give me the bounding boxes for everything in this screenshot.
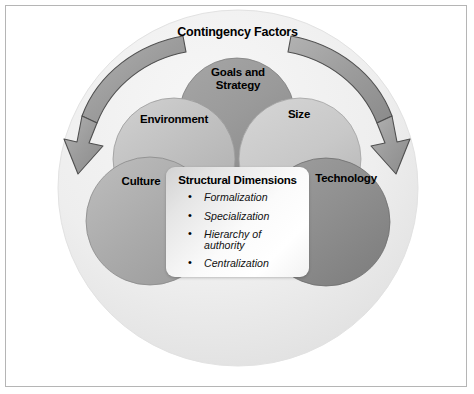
list-item: Hierarchy of authority — [188, 229, 301, 250]
list-item: Specialization — [188, 211, 301, 222]
circle-label-technology: Technology — [300, 172, 392, 185]
structural-dimensions-box: Structural Dimensions Formalization Spec… — [166, 167, 309, 277]
list-item: Centralization — [188, 258, 301, 269]
structural-dimensions-list: Formalization Specialization Hierarchy o… — [174, 192, 301, 269]
contingency-factors-label: Contingency Factors — [150, 25, 325, 39]
circle-label-environment: Environment — [118, 113, 230, 126]
diagram-figure: Contingency Factors Goals and Strategy E… — [0, 0, 474, 394]
diagram-stage: Contingency Factors Goals and Strategy E… — [0, 0, 474, 394]
circle-label-goals-strategy: Goals and Strategy — [180, 66, 296, 92]
circle-label-size: Size — [254, 108, 344, 121]
structural-dimensions-title: Structural Dimensions — [174, 174, 301, 186]
list-item: Formalization — [188, 192, 301, 203]
